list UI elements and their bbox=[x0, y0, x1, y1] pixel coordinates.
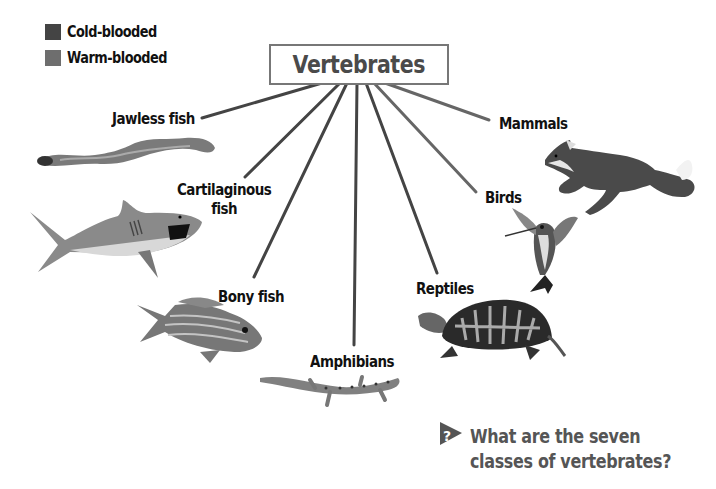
turtle-illustration bbox=[418, 300, 565, 360]
question-line: What are the seven bbox=[470, 424, 671, 449]
root-title: Vertebrates bbox=[293, 50, 425, 79]
label-bony-fish: Bony fish bbox=[218, 287, 284, 306]
label-jawless-fish: Jawless fish bbox=[112, 109, 195, 128]
warm-blooded-swatch bbox=[45, 50, 61, 66]
legend-item-cold-blooded: Cold-blooded bbox=[45, 23, 171, 41]
line-birds bbox=[374, 83, 476, 192]
question-text: What are the seven classes of vertebrate… bbox=[470, 424, 671, 474]
cold-blooded-swatch bbox=[45, 24, 61, 40]
line-mammals bbox=[385, 83, 489, 120]
question-block: What are the seven classes of vertebrate… bbox=[470, 424, 709, 474]
label-reptiles: Reptiles bbox=[416, 279, 474, 298]
line-amphibians bbox=[354, 83, 357, 345]
bony-fish-illustration bbox=[137, 297, 262, 363]
label-line: Cartilaginous bbox=[177, 180, 271, 199]
label-line: fish bbox=[177, 199, 271, 218]
salamander-illustration bbox=[260, 377, 400, 405]
fox-illustration bbox=[545, 140, 695, 215]
legend-label: Cold-blooded bbox=[67, 23, 157, 41]
root-node: Vertebrates bbox=[269, 44, 449, 85]
svg-text:?: ? bbox=[443, 428, 451, 444]
label-birds: Birds bbox=[485, 188, 522, 207]
legend-label: Warm-blooded bbox=[67, 49, 167, 67]
label-cartilaginous-fish: Cartilaginous fish bbox=[177, 180, 271, 218]
legend-item-warm-blooded: Warm-blooded bbox=[45, 49, 183, 67]
lamprey-illustration bbox=[37, 138, 215, 166]
label-amphibians: Amphibians bbox=[310, 352, 394, 371]
line-jawless-fish bbox=[202, 83, 322, 118]
question-line: classes of vertebrates? bbox=[470, 449, 671, 474]
question-arrow-icon: ? bbox=[440, 422, 462, 445]
label-mammals: Mammals bbox=[499, 114, 568, 133]
hummingbird-illustration bbox=[505, 208, 578, 294]
